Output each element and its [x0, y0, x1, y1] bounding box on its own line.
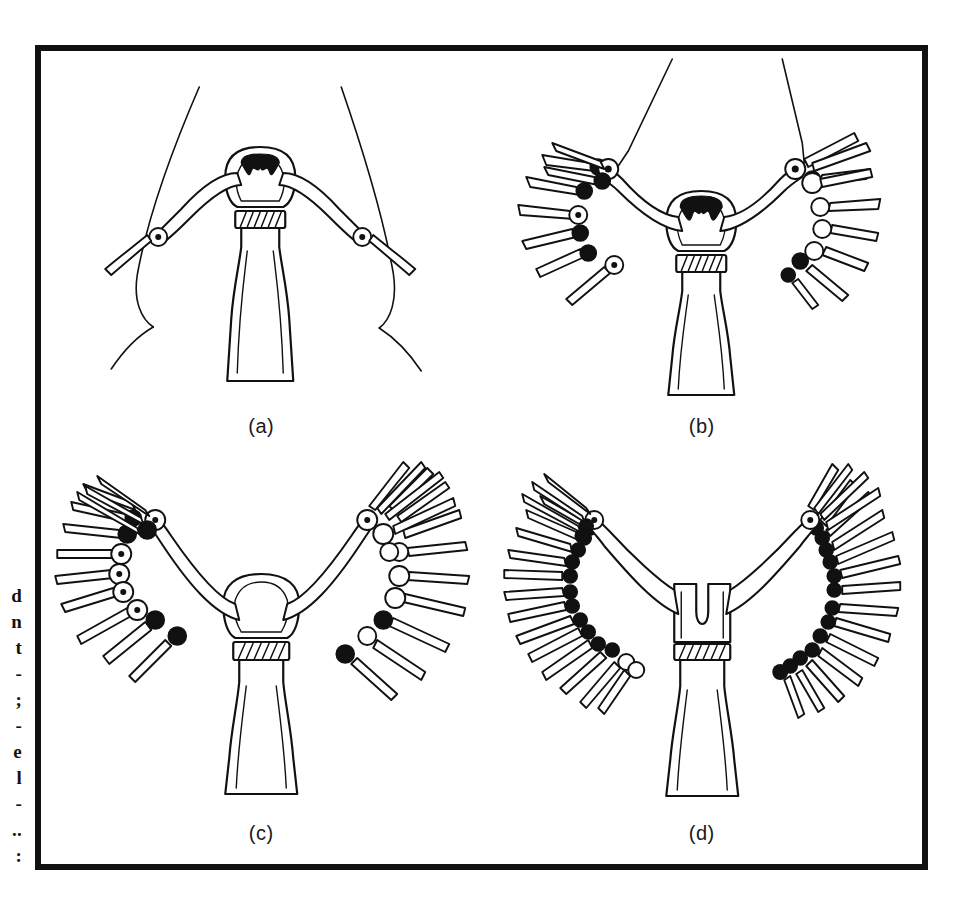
margin-text-line: d: [0, 583, 22, 609]
polyp-drawing-b: [482, 51, 923, 419]
tentacle: [827, 582, 900, 597]
tentacle: [566, 256, 623, 305]
margin-text-line: -: [0, 713, 22, 739]
tentacle-arm-left: [105, 173, 241, 275]
collar-band: [676, 255, 726, 272]
margin-text-line: t: [0, 635, 22, 661]
tentacle: [389, 566, 469, 586]
margin-text-line: e: [0, 739, 22, 765]
figure-panel-grid: (a): [41, 51, 922, 864]
tentacle: [55, 564, 129, 584]
tentacle: [598, 662, 644, 714]
tentacle-arm-right: [279, 173, 415, 275]
long-filament-right: [782, 59, 804, 163]
tentacle: [504, 569, 577, 583]
tentacle: [390, 542, 467, 561]
margin-text-fragment: d n t - ; - e l - .. :: [0, 583, 22, 873]
tentacle: [385, 588, 465, 616]
collar-band: [674, 644, 730, 660]
tentacle-arm-right: [720, 133, 872, 231]
tentacle: [518, 205, 587, 224]
long-filament-left: [616, 59, 672, 169]
margin-text-line: :: [0, 843, 22, 869]
margin-text-line: -: [0, 791, 22, 817]
panel-label-d: (d): [689, 822, 715, 845]
scanned-page: d n t - ; - e l - .. :: [0, 0, 963, 897]
polyp-drawing-a: [41, 51, 482, 419]
figure-panel-c: (c): [41, 458, 482, 865]
margin-text-line: n: [0, 609, 22, 635]
tentacle: [811, 198, 880, 216]
margin-text-line: l: [0, 765, 22, 791]
polyp-drawing-c: [41, 458, 482, 826]
tentacle-fan-left: [55, 484, 186, 682]
tentacle: [825, 601, 898, 616]
tentacle: [61, 582, 133, 612]
tentacle-arm-right: [283, 462, 455, 620]
tentacle: [508, 550, 579, 569]
margin-text-line: -: [0, 661, 22, 687]
polyp-stalk: [227, 223, 293, 381]
tentacle: [57, 544, 131, 564]
tentacle: [536, 245, 596, 277]
panel-label-c: (c): [249, 822, 274, 845]
tentacle-fan-right: [781, 169, 880, 309]
collar-band: [233, 642, 289, 660]
polyp-stalk: [668, 267, 734, 395]
tentacle: [504, 585, 577, 600]
polyp-stalk: [225, 656, 297, 794]
panel-label-b: (b): [689, 415, 715, 438]
tentacle: [522, 225, 588, 249]
figure-panel-b: (b): [482, 51, 923, 458]
open-head-cup: [674, 584, 730, 642]
tentacle: [813, 220, 878, 241]
figure-panel-d: (d): [482, 458, 923, 865]
panel-label-a: (a): [248, 415, 274, 438]
polyp-stalk: [666, 658, 738, 796]
collar-band: [235, 211, 285, 228]
polyp-drawing-d: [482, 458, 923, 826]
figure-panel-a: (a): [41, 51, 482, 458]
margin-text-line: ..: [0, 817, 22, 843]
margin-text-line: ;: [0, 687, 22, 713]
